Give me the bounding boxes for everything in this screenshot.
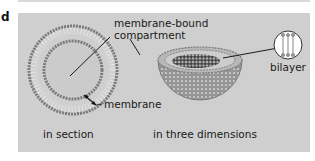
in-three-dimensions-caption: in three dimensions <box>153 128 257 140</box>
previous-panel-edge <box>18 0 310 2</box>
panel-letter: d <box>1 10 10 24</box>
compartment-label-line2: compartment <box>114 29 185 41</box>
bilayer-label: bilayer <box>270 61 306 73</box>
diagram-panel: membrane-bound compartment membrane bila… <box>18 13 310 152</box>
compartment-label-line1: membrane-bound <box>114 17 208 29</box>
bilayer-inset-illustration <box>274 31 302 59</box>
in-section-caption: in section <box>43 128 94 140</box>
membrane-label: membrane <box>104 98 161 110</box>
three-d-vesicle-illustration <box>110 37 278 100</box>
